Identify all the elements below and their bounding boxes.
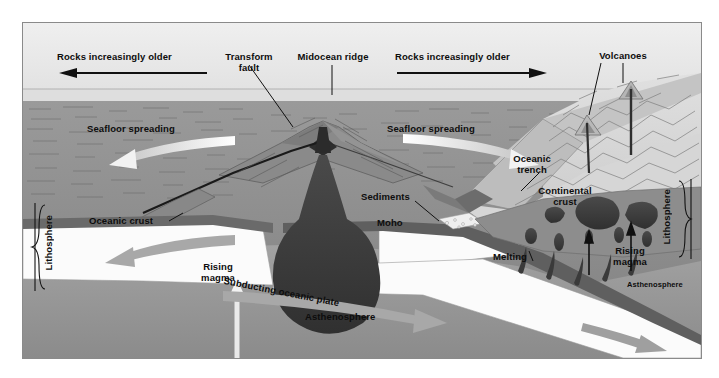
diagram-frame: Rocks increasingly older Rocks increasin… [22, 22, 702, 359]
label-transform-fault: Transform fault [209, 51, 289, 73]
arrow-rocks-older-right [395, 67, 555, 79]
label-rocks-older-left: Rocks increasingly older [57, 51, 172, 62]
diagram-canvas: Rocks increasingly older Rocks increasin… [0, 0, 719, 378]
label-oceanic-trench: Oceanic trench [501, 153, 563, 175]
label-continental-crust: Continental crust [529, 185, 601, 207]
label-asthenosphere-right: Asthenosphere [627, 279, 683, 290]
label-rising-magma-right: Rising magma [601, 245, 659, 267]
label-volcanoes: Volcanoes [585, 50, 661, 61]
label-lithosphere-right: Lithosphere [661, 189, 672, 244]
label-sediments: Sediments [361, 191, 410, 202]
label-oceanic-crust: Oceanic crust [89, 215, 153, 226]
label-moho: Moho [377, 217, 403, 228]
arrow-rocks-older-left [57, 67, 217, 79]
label-midocean-ridge: Midocean ridge [281, 51, 385, 62]
label-lithosphere-left: Lithosphere [43, 215, 54, 270]
label-melting: Melting [493, 251, 527, 262]
label-rocks-older-right: Rocks increasingly older [395, 51, 510, 62]
label-asthenosphere-main: Asthenosphere [305, 311, 375, 322]
label-seafloor-spreading-right: Seafloor spreading [387, 123, 475, 134]
label-seafloor-spreading-left: Seafloor spreading [87, 123, 175, 134]
